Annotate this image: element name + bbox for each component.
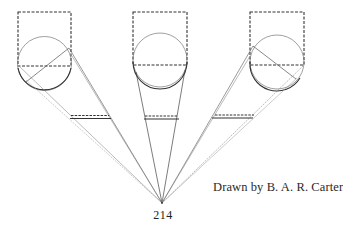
page-number: 214 (150, 208, 176, 223)
right-circle (250, 35, 304, 89)
left-dashed-square (18, 12, 71, 66)
right-dashed-square (250, 12, 304, 65)
apex-point (161, 202, 163, 204)
right-view (162, 12, 304, 203)
center-circle-lower-arc (133, 62, 187, 89)
figure-caption: Drawn by B. A. R. Carter (213, 180, 343, 195)
center-dashed-square (133, 12, 187, 65)
left-circle-lower-arc (18, 68, 71, 90)
left-view (18, 12, 163, 203)
center-projection-left (136, 72, 162, 203)
left-diagonal (26, 48, 69, 82)
right-diagonal (253, 46, 296, 79)
center-circle (133, 33, 187, 87)
